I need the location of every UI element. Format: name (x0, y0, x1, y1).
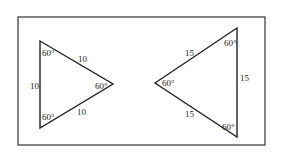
angle-left-right: 60° (95, 81, 108, 91)
angle-left-bottom: 60° (42, 112, 55, 122)
side-right-lower: 15 (185, 109, 195, 119)
side-left-vertical: 10 (30, 81, 40, 91)
diagram-canvas: 60° 60° 60° 10 10 10 60° 60° 60° 15 15 1… (0, 0, 281, 164)
side-right-vertical: 15 (240, 73, 250, 83)
angle-right-top: 60° (224, 38, 237, 48)
side-left-upper: 10 (78, 54, 88, 64)
angle-right-left: 60° (162, 78, 175, 88)
side-right-upper: 15 (185, 48, 195, 58)
angle-left-top: 60° (42, 48, 55, 58)
angle-right-bottom: 60° (222, 122, 235, 132)
side-left-lower: 10 (77, 107, 87, 117)
